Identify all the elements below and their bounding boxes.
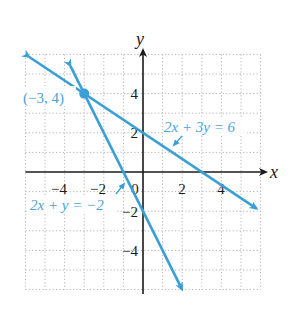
- x-tick-label: −4: [51, 181, 67, 197]
- equation-label-2: 2x + y = −2: [30, 197, 104, 213]
- intersection-label: (−3, 4): [23, 90, 64, 107]
- x-axis-label: x: [269, 162, 278, 182]
- y-tick-label: −2: [122, 204, 138, 220]
- graph: x y −4 −2 0 2 4 4 2 −2 −4 (−3, 4) 2x + 3…: [0, 0, 294, 314]
- x-tick-label: −2: [90, 181, 106, 197]
- y-tick-label: −4: [122, 243, 138, 259]
- intersection-point: [79, 89, 89, 99]
- y-axis-label: y: [134, 29, 144, 49]
- pointer-arrow-2: [116, 184, 124, 194]
- x-tick-label: 2: [178, 181, 186, 197]
- y-tick-label: 4: [131, 86, 139, 102]
- equation-label-1: 2x + 3y = 6: [164, 119, 236, 135]
- pointer-arrow-1: [174, 136, 182, 145]
